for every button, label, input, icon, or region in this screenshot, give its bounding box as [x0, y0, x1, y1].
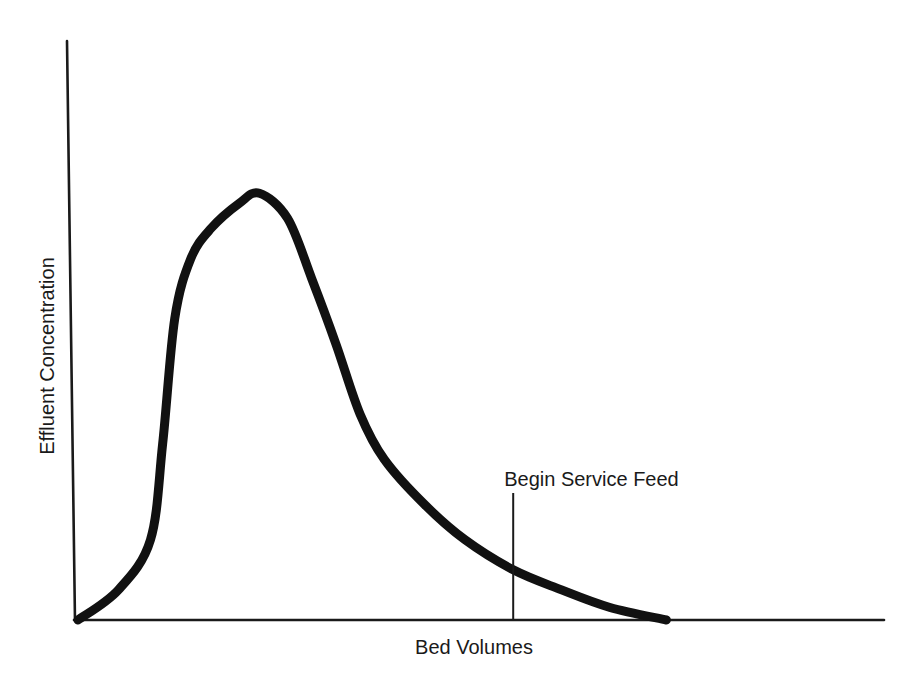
y-axis: [67, 41, 75, 621]
y-axis-label: Effluent Concentration: [36, 257, 58, 455]
begin-service-feed-label: Begin Service Feed: [504, 468, 679, 490]
breakthrough-chart: Begin Service Feed Bed Volumes Effluent …: [0, 0, 921, 690]
effluent-curve: [78, 193, 666, 620]
x-axis-label: Bed Volumes: [415, 636, 533, 658]
